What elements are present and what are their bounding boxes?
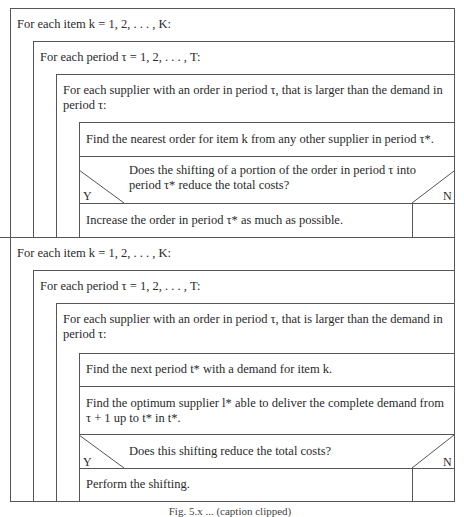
figure-caption: Fig. 5.x ... (caption clipped) <box>60 505 400 517</box>
